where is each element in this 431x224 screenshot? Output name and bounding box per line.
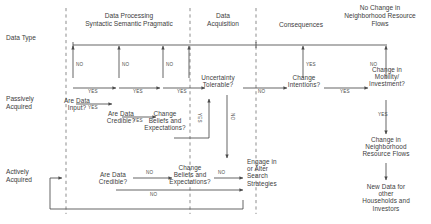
row-passive-l2: Acquired bbox=[6, 103, 64, 111]
node-flows-l3: Resource Flows bbox=[345, 150, 427, 157]
header-data-acquisition-l2: Acquisition bbox=[192, 20, 254, 28]
edge-label-no-3: NO bbox=[166, 62, 173, 67]
node-newdata-l3: Households and bbox=[345, 197, 427, 204]
node-intentions-l1: Change bbox=[282, 74, 326, 81]
node-newdata-l1: New Data for bbox=[345, 183, 427, 190]
edge-label-no-7: NO bbox=[218, 170, 225, 175]
edge-engage-feedback bbox=[50, 178, 243, 209]
node-are-data-input-l1: Are Data bbox=[58, 97, 96, 104]
edge-label-yes-6: YES bbox=[197, 113, 202, 123]
flowchart-canvas: Data Type Data Processing Syntactic Sema… bbox=[0, 0, 431, 224]
node-beliefs-active-l3: Expectations? bbox=[166, 178, 214, 185]
header-consequences: Consequences bbox=[262, 21, 340, 29]
node-change-intentions[interactable]: Change Intentions? bbox=[282, 74, 326, 88]
node-beliefs-passive-l1: Change bbox=[142, 110, 188, 117]
edge-label-no-8: NO bbox=[150, 192, 157, 197]
edge-label-yes-7: NO bbox=[258, 89, 265, 94]
node-uncertainty-tolerable[interactable]: Uncertainty Tolerable? bbox=[192, 74, 244, 88]
header-data-acquisition: Data Acquisition bbox=[192, 12, 254, 28]
node-engage-l2: or Alter bbox=[247, 165, 291, 172]
header-data-processing-l2: Syntactic Semantic Pragmatic bbox=[70, 20, 188, 28]
node-newdata-l4: Investors bbox=[345, 205, 427, 212]
row-active-l2: Acquired bbox=[6, 176, 64, 184]
edge-label-yes-3: YES bbox=[177, 89, 187, 94]
node-beliefs-passive-l3: Expectations? bbox=[142, 124, 188, 131]
node-credible-active-l2: Credible? bbox=[92, 178, 134, 185]
node-change-neighborhood-flows[interactable]: Change in Neighborhood Resource Flows bbox=[345, 136, 427, 158]
node-intentions-l2: Intentions? bbox=[282, 81, 326, 88]
node-are-data-credible-active[interactable]: Are Data Credible? bbox=[92, 171, 134, 185]
edge-label-yes-2: YES bbox=[133, 89, 143, 94]
node-new-data[interactable]: New Data for other Households and Invest… bbox=[345, 183, 427, 212]
node-engage-l3: Search bbox=[247, 172, 291, 179]
edge-label-no-5: YES bbox=[306, 62, 316, 67]
node-uncertainty-l2: Tolerable? bbox=[192, 81, 244, 88]
edge-label-yes-8: YES bbox=[340, 89, 350, 94]
row-label-data-type: Data Type bbox=[6, 34, 64, 42]
edge-label-no-2: NO bbox=[122, 62, 129, 67]
row-label-actively-acquired: Actively Acquired bbox=[6, 168, 64, 184]
node-beliefs-passive-l2: Beliefs and bbox=[142, 117, 188, 124]
header-consequences-l1: Consequences bbox=[262, 21, 340, 29]
header-data-acquisition-l1: Data bbox=[192, 12, 254, 20]
node-change-beliefs-active[interactable]: Change Beliefs and Expectations? bbox=[166, 164, 214, 186]
row-passive-l1: Passively bbox=[6, 95, 64, 103]
node-engage-l4: Strategies bbox=[247, 180, 291, 187]
node-uncertainty-l1: Uncertainty bbox=[192, 74, 244, 81]
node-beliefs-active-l2: Beliefs and bbox=[166, 171, 214, 178]
header-no-change-flows-l3: Flows bbox=[330, 20, 430, 28]
node-mobility-l1: Change in bbox=[362, 66, 412, 73]
node-credible-passive-l1: Are Data bbox=[101, 110, 141, 117]
data-type-text: Data Type bbox=[6, 34, 36, 41]
edge-label-no-1: NO bbox=[76, 62, 83, 67]
node-change-mobility-investment[interactable]: Change in Mobility/ Investment? bbox=[362, 66, 412, 88]
node-mobility-l3: Investment? bbox=[362, 80, 412, 87]
node-flows-l2: Neighborhood bbox=[345, 143, 427, 150]
edge-label-no-6: NO bbox=[370, 62, 377, 67]
edge-label-yes-10: NO bbox=[146, 170, 153, 175]
edge-label-yes-4: YES bbox=[88, 105, 98, 110]
header-data-processing: Data Processing Syntactic Semantic Pragm… bbox=[70, 12, 188, 28]
node-credible-active-l1: Are Data bbox=[92, 171, 134, 178]
edge-label-yes-5: YES bbox=[133, 118, 143, 123]
edge-label-no-4: NO bbox=[230, 113, 235, 120]
node-mobility-l2: Mobility/ bbox=[362, 73, 412, 80]
edge-label-yes-9: YES bbox=[378, 112, 388, 117]
header-no-change-flows-l1: No Change in bbox=[330, 4, 430, 12]
node-flows-l1: Change in bbox=[345, 136, 427, 143]
node-beliefs-active-l1: Change bbox=[166, 164, 214, 171]
node-engage-l1: Engage in bbox=[247, 158, 291, 165]
row-active-l1: Actively bbox=[6, 168, 64, 176]
node-newdata-l2: other bbox=[345, 190, 427, 197]
edge-label-yes-1: YES bbox=[88, 89, 98, 94]
row-label-passively-acquired: Passively Acquired bbox=[6, 95, 64, 111]
header-no-change-flows-l2: Neighborhood Resource bbox=[330, 12, 430, 20]
header-no-change-flows: No Change in Neighborhood Resource Flows bbox=[330, 4, 430, 28]
node-engage-alter-search[interactable]: Engage in or Alter Search Strategies bbox=[247, 158, 291, 187]
header-data-processing-l1: Data Processing bbox=[70, 12, 188, 20]
node-change-beliefs-passive[interactable]: Change Beliefs and Expectations? bbox=[142, 110, 188, 132]
